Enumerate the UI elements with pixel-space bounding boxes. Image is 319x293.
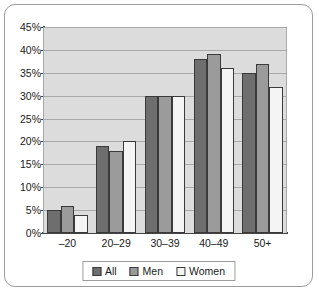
bar-all-3 [194,59,208,233]
bar-women-0 [74,215,88,233]
y-tick-label: 30% [7,90,41,102]
y-tick-label: 15% [7,158,41,170]
legend-label: All [105,265,117,277]
y-tick-label: 35% [7,67,41,79]
y-tick-label: 10% [7,181,41,193]
bar-women-1 [123,141,137,233]
y-tick-label: 45% [7,21,41,33]
y-tick-label: 20% [7,135,41,147]
bar-all-0 [47,210,61,233]
y-tick-label: 25% [7,113,41,125]
x-tick-label: 30–39 [150,237,179,249]
bar-group [194,27,235,233]
bar-men-3 [207,54,221,233]
legend-swatch-icon [92,267,101,276]
x-tick-label: 50+ [254,237,272,249]
x-axis-tick-labels: –2020–2930–3940–4950+ [43,237,287,255]
bar-series-container [43,27,287,233]
bar-men-0 [61,206,75,233]
y-tick-label: 0% [7,227,41,239]
bar-group [47,27,88,233]
y-axis-tick-labels: 0%5%10%15%20%25%30%35%40%45% [5,27,41,233]
x-tick-label: –20 [59,237,77,249]
bar-group [96,27,137,233]
legend-entry-women[interactable]: Women [176,265,225,277]
bar-women-2 [172,96,186,233]
chart-legend: AllMenWomen [82,261,235,281]
legend-swatch-icon [130,267,139,276]
plot-area-wrapper [43,27,287,233]
bar-all-1 [96,146,110,233]
y-tick-label: 40% [7,44,41,56]
bar-all-2 [145,96,159,233]
legend-entry-men[interactable]: Men [130,265,163,277]
chart-figure: 0%5%10%15%20%25%30%35%40%45% –2020–2930–… [4,4,313,287]
x-tick-label: 40–49 [199,237,228,249]
legend-entry-all[interactable]: All [92,265,117,277]
legend-label: Women [189,265,225,277]
bar-women-3 [221,68,235,233]
bar-group [145,27,186,233]
bar-men-4 [256,64,270,233]
bar-men-2 [158,96,172,233]
bar-women-4 [269,87,283,233]
legend-swatch-icon [176,267,185,276]
legend-label: Men [143,265,163,277]
x-tick-label: 20–29 [102,237,131,249]
y-tick-label: 5% [7,204,41,216]
bar-group [242,27,283,233]
bar-men-1 [109,151,123,233]
bar-all-4 [242,73,256,233]
